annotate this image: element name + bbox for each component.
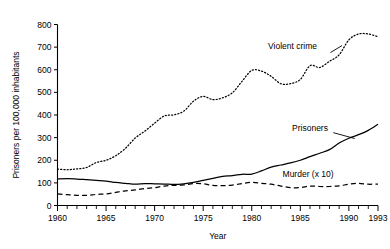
x-tick-label: 1993 <box>369 213 388 223</box>
y-tick-label: 400 <box>37 110 51 120</box>
series-line-murder-x-10 <box>58 182 379 195</box>
x-tick-label: 1970 <box>145 213 164 223</box>
y-tick-label: 500 <box>37 87 51 97</box>
x-tick-label: 1960 <box>48 213 67 223</box>
line-chart: 0100200300400500600700800 19601965197019… <box>0 0 390 249</box>
x-axis-title: Year <box>209 231 226 241</box>
series-label-murder-x-10: Murder (x 10) <box>283 169 334 179</box>
x-tick-label: 1985 <box>291 213 310 223</box>
chart-container: 0100200300400500600700800 19601965197019… <box>0 0 390 249</box>
y-tick-label: 0 <box>47 201 52 211</box>
x-tick-label: 1980 <box>242 213 261 223</box>
y-tick-label: 200 <box>37 155 51 165</box>
leader-prisoners <box>333 133 354 139</box>
x-tick-label: 1975 <box>194 213 213 223</box>
y-tick-label: 600 <box>37 65 51 75</box>
series-label-violent-crime: Violent crime <box>268 41 317 51</box>
y-tick-label: 800 <box>37 20 51 30</box>
series-annotations: Violent crimePrisonersMurder (x 10) <box>268 41 355 178</box>
y-axis: 0100200300400500600700800 <box>37 20 57 211</box>
y-tick-label: 700 <box>37 42 51 52</box>
series-label-prisoners: Prisoners <box>292 123 328 133</box>
x-tick-label: 1990 <box>339 213 358 223</box>
leader-violent-crime <box>330 46 342 53</box>
y-tick-label: 100 <box>37 178 51 188</box>
x-tick-label: 1965 <box>97 213 116 223</box>
y-axis-title: Prisoners per 100,000 inhabitants <box>11 51 21 178</box>
x-axis: 19601965197019751980198519901993 <box>48 206 388 223</box>
y-tick-label: 300 <box>37 133 51 143</box>
